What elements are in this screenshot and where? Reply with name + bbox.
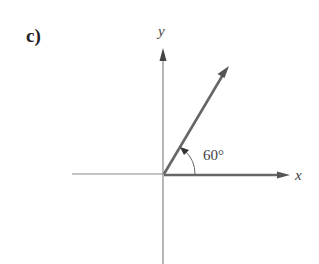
- coordinate-diagram: 60° x y: [0, 0, 319, 264]
- x-vector-arrowhead: [277, 172, 290, 179]
- angle-label: 60°: [203, 147, 224, 163]
- angle-arc: [185, 151, 195, 174]
- x-axis-label: x: [294, 167, 302, 183]
- y-axis-arrowhead: [160, 48, 167, 61]
- y-axis-label: y: [156, 23, 165, 39]
- angled-vector-arrowhead: [218, 66, 230, 78]
